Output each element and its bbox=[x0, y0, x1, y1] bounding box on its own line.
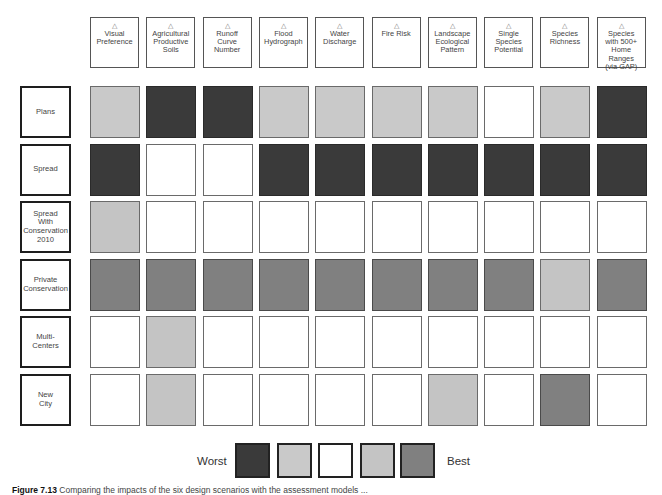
legend-swatch bbox=[235, 443, 270, 478]
triangle-icon: △ bbox=[562, 22, 567, 29]
grid-cell bbox=[484, 316, 534, 368]
column-header-text: Discharge bbox=[323, 38, 356, 46]
column-header: △LandscapeEcologicalPattern bbox=[428, 17, 477, 68]
grid-cell bbox=[203, 374, 253, 426]
grid-cell bbox=[597, 201, 647, 253]
row-label-text: Spread bbox=[33, 165, 58, 174]
column-header-text: Preference bbox=[96, 38, 132, 46]
column-header: △Specieswith 500+Home Ranges(via GAP) bbox=[597, 17, 646, 68]
grid-cell bbox=[315, 316, 365, 368]
column-header-text: Richness bbox=[550, 38, 580, 46]
triangle-icon: △ bbox=[112, 22, 117, 29]
row-label: Plans bbox=[20, 86, 71, 138]
row-label: SpreadWithConservation2010 bbox=[20, 201, 71, 253]
triangle-icon: △ bbox=[394, 22, 399, 29]
grid-cell bbox=[315, 259, 365, 311]
grid-cell bbox=[428, 259, 478, 311]
grid-cell bbox=[259, 144, 309, 196]
grid-cell bbox=[315, 374, 365, 426]
grid-cell bbox=[146, 316, 196, 368]
column-header-text: (via GAP) bbox=[605, 63, 637, 71]
grid-cell bbox=[90, 201, 140, 253]
column-header: △AgriculturalProductiveSoils bbox=[146, 17, 195, 68]
grid-cell bbox=[597, 374, 647, 426]
grid-cell bbox=[597, 86, 647, 138]
row-label-text: NewCity bbox=[38, 391, 53, 408]
grid-cell bbox=[484, 86, 534, 138]
grid-cell bbox=[146, 259, 196, 311]
grid-cell bbox=[484, 201, 534, 253]
grid-cell bbox=[597, 144, 647, 196]
grid-cell bbox=[146, 374, 196, 426]
row-label-text: PrivateConservation bbox=[23, 276, 68, 293]
grid-cell bbox=[315, 144, 365, 196]
grid-cell bbox=[540, 316, 590, 368]
grid-cell bbox=[259, 374, 309, 426]
column-header: △Fire Risk bbox=[372, 17, 421, 68]
grid-cell bbox=[372, 144, 422, 196]
column-header: △SpeciesRichness bbox=[540, 17, 589, 68]
row-label: PrivateConservation bbox=[20, 259, 71, 311]
grid-cell bbox=[597, 316, 647, 368]
column-header: △WaterDischarge bbox=[315, 17, 364, 68]
grid-cell bbox=[372, 259, 422, 311]
grid-cell bbox=[90, 316, 140, 368]
row-label: Spread bbox=[20, 144, 71, 196]
grid-cell bbox=[428, 86, 478, 138]
row-label: NewCity bbox=[20, 374, 71, 426]
grid-cell bbox=[540, 144, 590, 196]
grid-cell bbox=[90, 259, 140, 311]
grid-cell bbox=[372, 374, 422, 426]
row-label-text: Plans bbox=[36, 108, 55, 117]
grid-cell bbox=[372, 316, 422, 368]
grid-cell bbox=[428, 144, 478, 196]
column-header-text: Potential bbox=[494, 46, 523, 54]
caption-text: Comparing the impacts of the six design … bbox=[59, 485, 368, 495]
grid-cell bbox=[484, 374, 534, 426]
triangle-icon: △ bbox=[281, 22, 286, 29]
grid-cell bbox=[484, 259, 534, 311]
column-header-text: Soils bbox=[163, 46, 179, 54]
grid-cell bbox=[203, 201, 253, 253]
grid-cell bbox=[259, 201, 309, 253]
grid-cell bbox=[315, 201, 365, 253]
legend-swatch bbox=[277, 443, 312, 478]
column-header-text: Pattern bbox=[440, 46, 464, 54]
legend-best-label: Best bbox=[447, 455, 470, 467]
grid-cell bbox=[540, 86, 590, 138]
grid-cell bbox=[146, 201, 196, 253]
grid-cell bbox=[203, 86, 253, 138]
grid-cell bbox=[90, 86, 140, 138]
grid-cell bbox=[259, 316, 309, 368]
column-header-text: Number bbox=[214, 46, 240, 54]
grid-cell bbox=[540, 259, 590, 311]
column-header: △FloodHydrograph bbox=[259, 17, 308, 68]
grid-cell bbox=[540, 374, 590, 426]
legend-swatch bbox=[400, 443, 435, 478]
triangle-icon: △ bbox=[337, 22, 342, 29]
grid-cell bbox=[90, 144, 140, 196]
column-header-text: Home Ranges bbox=[598, 46, 645, 62]
grid-cell bbox=[597, 259, 647, 311]
column-header-text: Fire Risk bbox=[381, 30, 410, 38]
grid-cell bbox=[90, 374, 140, 426]
grid-cell bbox=[315, 86, 365, 138]
row-label-text: SpreadWithConservation2010 bbox=[23, 210, 68, 244]
triangle-icon: △ bbox=[506, 22, 511, 29]
triangle-icon: △ bbox=[168, 22, 173, 29]
triangle-icon: △ bbox=[225, 22, 230, 29]
figure-caption: Figure 7.13 Comparing the impacts of the… bbox=[12, 485, 368, 495]
caption-label: Figure 7.13 bbox=[12, 485, 57, 495]
grid-cell bbox=[203, 144, 253, 196]
grid-cell bbox=[428, 316, 478, 368]
legend-worst-label: Worst bbox=[197, 455, 227, 467]
column-header-text: Hydrograph bbox=[264, 38, 303, 46]
grid-cell bbox=[146, 144, 196, 196]
grid-cell bbox=[372, 201, 422, 253]
grid-cell bbox=[372, 86, 422, 138]
grid-cell bbox=[203, 316, 253, 368]
grid-cell bbox=[259, 259, 309, 311]
column-header: △RunoffCurveNumber bbox=[203, 17, 252, 68]
legend-swatch bbox=[360, 443, 395, 478]
legend-swatch bbox=[318, 443, 353, 478]
